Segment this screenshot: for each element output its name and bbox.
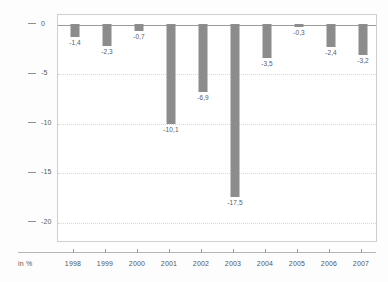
x-axis: in % 1998 1999 2000 2001 2002 2003 2004 … [18,252,378,278]
bar-group-2007: -3,2 [347,14,379,242]
bar[interactable] [263,24,272,59]
bar-value-label: -17,5 [227,199,242,207]
x-axis-tick-mark [169,249,170,253]
bar[interactable] [359,24,368,56]
y-tick-dash-icon [28,172,36,173]
x-axis-tick-mark [297,249,298,253]
bar-value-label: -10,1 [163,126,178,134]
bar-group-2004: -3,5 [251,14,283,242]
bar-value-label: -2,4 [325,49,337,57]
y-axis-tick: 0 [0,18,57,30]
x-axis-tick-mark [265,249,266,253]
bar[interactable] [135,24,144,31]
bar-group-2000: -0,7 [123,14,155,242]
y-axis-tick: -10 [0,117,57,129]
bar-value-label: -2,3 [101,48,113,56]
x-axis-tick-label: 2005 [289,259,305,268]
bar-group-2006: -2,4 [315,14,347,242]
x-axis-tick-label: 2001 [161,259,177,268]
bar-value-label: -0,3 [293,29,305,37]
bars-layer: -1,4 -2,3 -0,7 -10,1 -6,9 -17,5 -3,5 [57,14,377,242]
x-axis-tick-mark [137,249,138,253]
x-axis-tick-mark [105,249,106,253]
x-axis-tick-mark [361,249,362,253]
y-axis-tick-label: -15 [41,168,57,176]
y-tick-dash-icon [28,73,36,74]
bar-group-2001: -10,1 [155,14,187,242]
bar-group-2003: -17,5 [219,14,251,242]
y-tick-dash-icon [28,23,36,24]
bar-value-label: -6,9 [197,94,209,102]
bar-value-label: -3,2 [357,57,369,65]
y-axis-tick-label: 0 [41,20,57,28]
y-tick-dash-icon [28,221,36,222]
x-axis-tick-mark [201,249,202,253]
bar[interactable] [327,24,336,48]
x-axis-tick-label: 2002 [193,259,209,268]
bar[interactable] [295,24,304,27]
x-axis-tick-label: 2004 [257,259,273,268]
bar[interactable] [199,24,208,92]
bar-group-1998: -1,4 [59,14,91,242]
bar-group-2005: -0,3 [283,14,315,242]
x-axis-tick-mark [329,249,330,253]
x-axis-tick-label: 2007 [353,259,369,268]
x-axis-unit-label: in % [18,259,32,268]
bar-value-label: -3,5 [261,60,273,68]
x-axis-tick-label: 2000 [129,259,145,268]
bar-value-label: -0,7 [133,33,145,41]
bar[interactable] [231,24,240,197]
bar[interactable] [103,24,112,47]
bar-value-label: -1,4 [69,39,81,47]
y-axis-tick: -20 [0,216,57,228]
y-axis-tick: -5 [0,67,57,79]
x-axis-tick-label: 1998 [65,259,81,268]
x-axis-tick-label: 1999 [97,259,113,268]
y-axis-tick: -15 [0,166,57,178]
x-axis-line [18,252,376,253]
bar[interactable] [71,24,80,38]
bar-group-1999: -2,3 [91,14,123,242]
y-axis: 0 -5 -10 -15 -20 [0,14,57,242]
bar[interactable] [167,24,176,124]
y-axis-tick-label: -20 [41,218,57,226]
bar-chart: 0 -5 -10 -15 -20 -1,4 [0,0,388,282]
y-axis-tick-label: -10 [41,119,57,127]
x-axis-tick-label: 2003 [225,259,241,268]
x-axis-tick-mark [233,249,234,253]
x-axis-tick-mark [73,249,74,253]
y-tick-dash-icon [28,122,36,123]
y-axis-tick-label: -5 [41,69,57,77]
bar-group-2002: -6,9 [187,14,219,242]
x-axis-tick-label: 2006 [321,259,337,268]
